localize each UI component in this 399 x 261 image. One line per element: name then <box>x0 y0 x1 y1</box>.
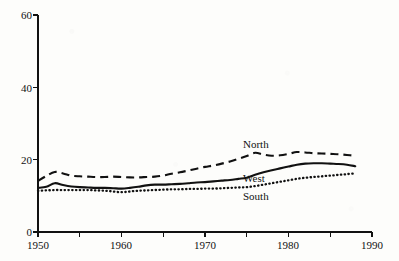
chart-axes <box>33 15 372 237</box>
chart-figure: 60 40 20 0 1950 1960 1970 1980 1990 Nort… <box>0 0 399 261</box>
y-tick-label-20: 20 <box>12 155 32 166</box>
series-label-west: West <box>243 173 265 184</box>
series-label-north: North <box>243 139 269 150</box>
x-tick-label-1990: 1990 <box>352 240 392 251</box>
chart-series-group <box>38 152 355 192</box>
series-line-west <box>38 163 355 188</box>
x-tick-label-1980: 1980 <box>268 240 308 251</box>
x-tick-label-1950: 1950 <box>18 240 58 251</box>
x-tick-label-1970: 1970 <box>185 240 225 251</box>
y-tick-label-60: 60 <box>12 10 32 21</box>
x-tick-label-1960: 1960 <box>101 240 141 251</box>
y-tick-label-40: 40 <box>12 83 32 94</box>
y-axis-ticks <box>33 15 38 232</box>
x-axis-ticks <box>38 232 372 237</box>
line-chart-canvas <box>0 0 399 261</box>
y-tick-label-0: 0 <box>12 227 32 238</box>
series-label-south: South <box>243 191 269 202</box>
